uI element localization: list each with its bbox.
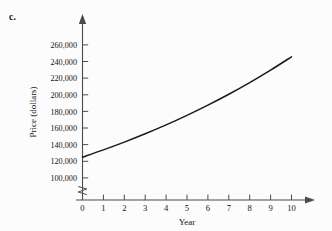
x-tick-marks: [83, 195, 292, 200]
x-tick-label-8: 8: [248, 203, 252, 213]
y-tick-label-120000: 120,000: [50, 157, 77, 166]
x-tick-label-7: 7: [227, 203, 232, 213]
x-tick-label-3: 3: [143, 203, 147, 213]
y-axis-break-icon: [78, 187, 87, 195]
y-tick-label-220000: 220,000: [50, 74, 77, 83]
y-tick-label-180000: 180,000: [50, 108, 77, 117]
figure-container: c. 260,000 240,000 220,000 200,000 180: [0, 0, 332, 231]
x-tick-label-4: 4: [164, 203, 169, 213]
y-axis-title: Price (dollars): [28, 86, 38, 137]
x-tick-label-10: 10: [287, 203, 296, 213]
y-tick-label-240000: 240,000: [50, 58, 77, 67]
x-tick-label-0: 0: [80, 203, 84, 213]
y-tick-label-260000: 260,000: [50, 41, 77, 50]
x-tick-label-6: 6: [206, 203, 211, 213]
y-tick-label-140000: 140,000: [50, 141, 77, 150]
x-tick-label-5: 5: [185, 203, 189, 213]
y-tick-label-200000: 200,000: [50, 91, 77, 100]
price-growth-curve: [83, 57, 292, 157]
y-tick-label-160000: 160,000: [50, 124, 77, 133]
x-axis-title: Year: [179, 217, 196, 227]
y-tick-label-100000: 100,000: [50, 174, 77, 183]
x-axis-arrow-icon: [305, 196, 315, 203]
x-tick-label-1: 1: [101, 203, 105, 213]
x-tick-label-9: 9: [268, 203, 272, 213]
x-tick-label-2: 2: [122, 203, 126, 213]
y-axis-arrow-icon: [79, 14, 86, 24]
chart-plot: 260,000 240,000 220,000 200,000 180,000 …: [0, 0, 332, 231]
y-tick-marks: [83, 45, 89, 178]
